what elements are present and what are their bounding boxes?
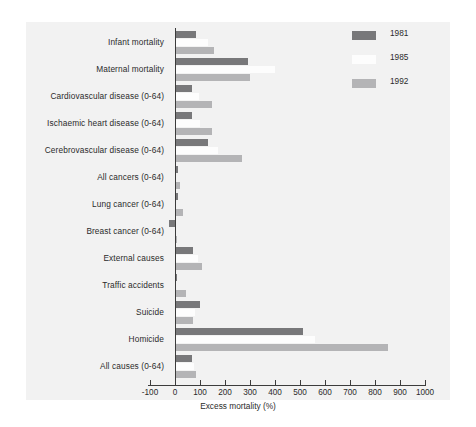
- bar: [175, 120, 200, 127]
- bar: [175, 101, 212, 108]
- bar: [175, 328, 303, 335]
- x-tick-label: 800: [368, 388, 382, 397]
- x-tick: [275, 380, 276, 386]
- bar: [175, 363, 194, 370]
- x-tick: [400, 380, 401, 386]
- legend-item: 1985: [352, 52, 442, 76]
- bar: [175, 247, 193, 254]
- x-tick: [225, 380, 226, 386]
- legend-label: 1985: [390, 52, 408, 62]
- x-tick-label: 1000: [416, 388, 434, 397]
- category-label: External causes: [103, 253, 164, 263]
- category-label: Infant mortality: [108, 37, 164, 47]
- x-tick: [375, 380, 376, 386]
- bar: [175, 47, 214, 54]
- category-label: Breast cancer (0-64): [86, 226, 164, 236]
- legend-swatch: [352, 55, 376, 64]
- x-tick-label: 500: [293, 388, 307, 397]
- bar: [175, 66, 275, 73]
- bar: [175, 147, 218, 154]
- x-tick-label: 200: [218, 388, 232, 397]
- legend-swatch: [352, 31, 376, 40]
- zero-baseline: [175, 28, 176, 385]
- x-tick-label: 900: [393, 388, 407, 397]
- plot-area: Infant mortalityMaternal mortalityCardio…: [0, 0, 476, 427]
- category-label: Cerebrovascular disease (0-64): [45, 145, 164, 155]
- bar: [175, 317, 193, 324]
- category-label: Ischaemic heart disease (0-64): [47, 118, 164, 128]
- category-label: Cardiovascular disease (0-64): [50, 91, 164, 101]
- x-tick-label: 0: [173, 388, 178, 397]
- bar: [175, 93, 199, 100]
- category-label: Suicide: [136, 307, 164, 317]
- x-tick: [300, 380, 301, 386]
- x-tick-label: 100: [193, 388, 207, 397]
- x-axis-line: [148, 385, 425, 386]
- x-tick: [150, 380, 151, 386]
- x-tick: [250, 380, 251, 386]
- x-tick-label: 300: [243, 388, 257, 397]
- bar: [175, 290, 186, 297]
- bar: [175, 39, 208, 46]
- category-label: Traffic accidents: [102, 280, 164, 290]
- legend-item: 1992: [352, 76, 442, 100]
- bar: [175, 301, 200, 308]
- x-tick-label: 700: [343, 388, 357, 397]
- x-axis-title: Excess mortality (%): [0, 401, 476, 411]
- bar: [175, 255, 198, 262]
- bar: [175, 263, 202, 270]
- bar: [175, 128, 212, 135]
- x-tick: [325, 380, 326, 386]
- x-tick: [350, 380, 351, 386]
- bar: [175, 139, 208, 146]
- legend-item: 1981: [352, 28, 442, 52]
- x-tick-label: 600: [318, 388, 332, 397]
- legend-label: 1981: [390, 28, 408, 38]
- bar: [175, 344, 388, 351]
- x-tick-label: -100: [142, 388, 158, 397]
- category-label: Maternal mortality: [96, 64, 164, 74]
- x-tick: [175, 380, 176, 386]
- category-label: Lung cancer (0-64): [92, 199, 164, 209]
- x-tick: [425, 380, 426, 386]
- category-label: All cancers (0-64): [97, 172, 164, 182]
- bar: [175, 74, 250, 81]
- x-tick-label: 400: [268, 388, 282, 397]
- bar: [175, 58, 248, 65]
- bar: [175, 112, 192, 119]
- bar: [175, 309, 195, 316]
- bar: [175, 31, 196, 38]
- bar: [175, 355, 192, 362]
- x-tick: [200, 380, 201, 386]
- bar: [175, 155, 242, 162]
- bar: [175, 371, 196, 378]
- bar: [175, 336, 315, 343]
- chart-legend: 198119851992: [352, 28, 442, 100]
- category-label: Homicide: [129, 334, 164, 344]
- bar: [175, 85, 192, 92]
- legend-label: 1992: [390, 76, 408, 86]
- category-label: All causes (0-64): [100, 361, 164, 371]
- chart-figure: Infant mortalityMaternal mortalityCardio…: [0, 0, 476, 427]
- legend-swatch: [352, 79, 376, 88]
